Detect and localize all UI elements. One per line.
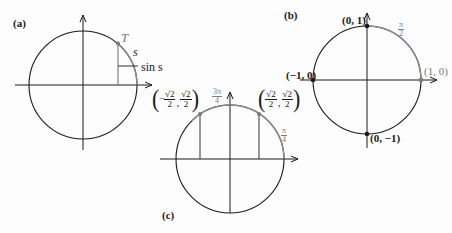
point-pi-over-4 bbox=[257, 112, 261, 116]
unit-circle-figure: (a) T s sin s (b) (0, 1) (−1, 0) (1, 0) … bbox=[0, 0, 452, 233]
arc-pi-over-2-label: π2 bbox=[398, 21, 404, 38]
panel-a bbox=[15, 15, 152, 150]
figure-graphics bbox=[0, 0, 452, 233]
sin-s-label: sin s bbox=[141, 61, 163, 73]
arc-s-label: s bbox=[133, 46, 138, 58]
arc-3pi-over-4 bbox=[192, 105, 284, 159]
left-point-coordinates: ( − √22 , √22 ) bbox=[152, 88, 199, 110]
point-neg1-0-label: (−1, 0) bbox=[286, 70, 316, 81]
point-0-1-label: (0, 1) bbox=[342, 15, 366, 26]
arc-pi-over-2 bbox=[367, 26, 421, 80]
point-0-neg1-label: (0, −1) bbox=[370, 133, 400, 144]
point-1-0 bbox=[419, 78, 424, 83]
panel-c bbox=[160, 92, 298, 213]
point-T-label: T bbox=[121, 31, 128, 44]
panel-tag-c: (c) bbox=[162, 210, 174, 221]
panel-tag-b: (b) bbox=[284, 10, 297, 21]
panel-b bbox=[300, 13, 437, 148]
point-0-neg1 bbox=[365, 132, 370, 137]
point-T bbox=[116, 42, 120, 46]
point-1-0-label: (1, 0) bbox=[424, 66, 448, 77]
right-point-coordinates: ( √22 , √22 ) bbox=[258, 88, 300, 110]
panel-tag-a: (a) bbox=[13, 18, 26, 29]
arc-3pi-over-4-label: 3π4 bbox=[212, 88, 222, 105]
point-3pi-over-4 bbox=[198, 112, 202, 116]
arc-pi-over-4-label: π4 bbox=[281, 127, 287, 144]
